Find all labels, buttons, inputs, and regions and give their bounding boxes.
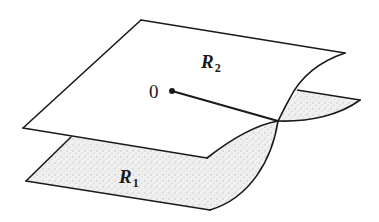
label-r1: R1	[119, 167, 139, 189]
label-r2-subscript: 2	[215, 61, 221, 75]
label-r1-base: R	[119, 166, 132, 187]
origin-point	[169, 88, 175, 94]
label-r2: R2	[201, 52, 221, 74]
label-r2-base: R	[201, 51, 214, 72]
label-r1-subscript: 1	[133, 176, 139, 190]
label-origin: 0	[149, 82, 159, 101]
two-sheet-surface-diagram	[0, 0, 379, 222]
